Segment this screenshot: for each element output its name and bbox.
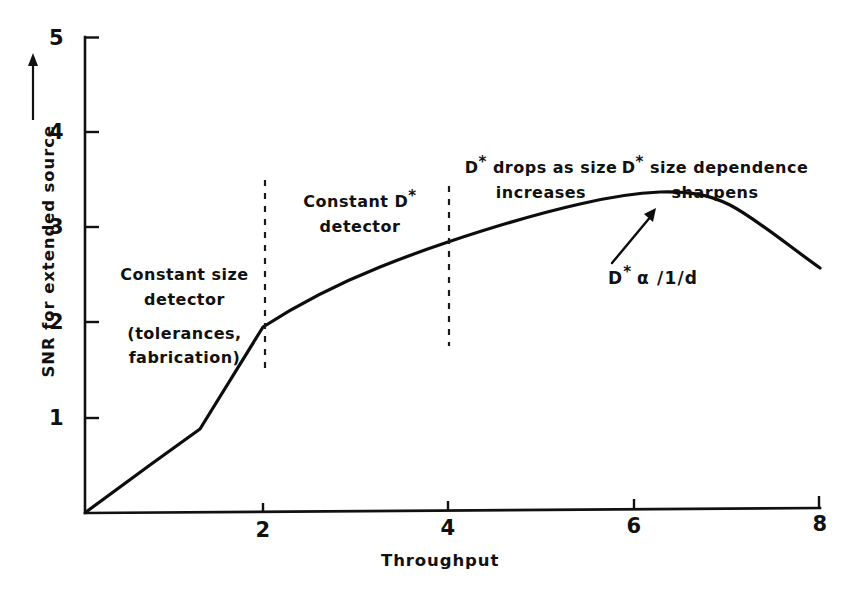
- annotation-region-2: Constant D* detector: [285, 190, 435, 240]
- asterisk-icon: *: [408, 187, 416, 205]
- annotation-region-1-line-1: Constant size: [97, 263, 272, 288]
- annotation-region-2-line-1: Constant D*: [285, 190, 435, 215]
- peak-pointer-label: D* α /1/d: [608, 268, 698, 288]
- peak-pointer-label-prefix: D: [608, 268, 623, 288]
- x-tick-label-8: 8: [805, 512, 835, 536]
- annotation-region-4-line-1: D* size dependence: [620, 156, 810, 181]
- annotation-region-4-line-2: sharpens: [620, 181, 810, 206]
- annotation-region-3-line-2: increases: [456, 181, 626, 206]
- asterisk-icon: *: [623, 263, 632, 281]
- peak-pointer-line: [612, 215, 652, 263]
- annotation-region-1-line-4: fabrication): [97, 346, 272, 371]
- annotation-region-3-line-1: D* drops as size: [456, 156, 626, 181]
- x-axis-line: [85, 508, 820, 513]
- x-tick-label-6: 6: [619, 514, 649, 538]
- asterisk-icon: *: [478, 153, 486, 171]
- x-tick-label-2: 2: [248, 518, 278, 542]
- annotation-region-1: Constant size detector (tolerances, fabr…: [97, 263, 272, 371]
- figure-canvas: 5 4 3 2 1 2 4 6 8 SNR for extended sourc…: [0, 0, 848, 593]
- y-axis-title: SNR for extended source: [39, 158, 58, 378]
- annotation-region-4: D* size dependence sharpens: [620, 156, 810, 206]
- annotation-region-2-line-2: detector: [285, 215, 435, 240]
- asterisk-icon: *: [636, 153, 644, 171]
- y-tick-label-1: 1: [40, 406, 64, 430]
- y-axis-arrow-head: [28, 53, 38, 66]
- x-tick-label-4: 4: [433, 516, 463, 540]
- peak-pointer-label-suffix: α /1/d: [637, 268, 698, 288]
- y-tick-label-5: 5: [40, 26, 64, 50]
- annotation-region-1-line-3: (tolerances,: [97, 322, 272, 347]
- annotation-region-3: D* drops as size increases: [456, 156, 626, 206]
- x-axis-title: Throughput: [381, 551, 499, 570]
- annotation-region-1-line-2: detector: [97, 288, 272, 313]
- peak-pointer-arrowhead: [644, 208, 656, 222]
